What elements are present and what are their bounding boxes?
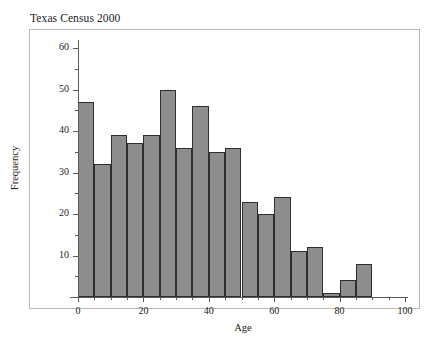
x-tick-label: 40	[204, 305, 214, 316]
y-tick-minor	[0, 235, 78, 236]
y-tick-major: 50	[0, 90, 78, 91]
y-tick-label: 30	[59, 166, 69, 177]
tick-mark	[73, 90, 78, 91]
x-tick-label: 20	[138, 305, 148, 316]
y-tick-minor	[0, 110, 78, 111]
tick-mark	[242, 297, 243, 300]
tick-mark	[291, 297, 292, 300]
histogram-chart: Texas Census 2000 102030405060 020406080…	[0, 0, 435, 346]
x-tick-label: 80	[335, 305, 345, 316]
tick-mark	[73, 131, 78, 132]
tick-mark	[389, 297, 390, 300]
x-tick-label: 0	[76, 305, 81, 316]
y-tick-label: 20	[59, 207, 69, 218]
y-tick-minor	[0, 69, 78, 70]
tick-mark	[209, 297, 210, 302]
histogram-bar	[258, 214, 274, 297]
tick-mark	[323, 297, 324, 300]
tick-mark	[356, 297, 357, 300]
tick-mark	[75, 69, 78, 70]
histogram-bar	[291, 251, 307, 297]
y-tick-major: 10	[0, 256, 78, 257]
tick-mark	[307, 297, 308, 300]
y-axis-title: Frequency	[9, 146, 20, 190]
tick-mark	[73, 173, 78, 174]
tick-mark	[405, 297, 406, 302]
y-tick-label: 10	[59, 249, 69, 260]
tick-mark	[127, 297, 128, 300]
y-tick-label: 50	[59, 83, 69, 94]
tick-mark	[274, 297, 275, 302]
chart-title: Texas Census 2000	[30, 12, 120, 24]
histogram-bar	[242, 202, 258, 297]
histogram-bar	[94, 164, 110, 297]
x-axis-title: Age	[234, 322, 252, 333]
y-tick-major: 40	[0, 131, 78, 132]
tick-mark	[258, 297, 259, 300]
histogram-bar	[111, 135, 127, 297]
histogram-bar	[78, 102, 94, 297]
histogram-bar	[307, 247, 323, 297]
tick-mark	[340, 297, 341, 302]
y-tick-major: 20	[0, 214, 78, 215]
histogram-bar	[192, 106, 208, 297]
histogram-bar	[274, 197, 290, 297]
tick-mark	[94, 297, 95, 300]
tick-mark	[75, 152, 78, 153]
tick-mark	[75, 193, 78, 194]
y-tick-minor	[0, 193, 78, 194]
tick-mark	[143, 297, 144, 302]
x-axis-line	[70, 297, 408, 298]
tick-mark	[73, 256, 78, 257]
tick-mark	[75, 276, 78, 277]
y-tick-label: 40	[59, 124, 69, 135]
histogram-bar	[160, 90, 176, 298]
y-axis-line	[78, 40, 79, 298]
histogram-bar	[340, 280, 356, 297]
tick-mark	[176, 297, 177, 300]
histogram-bar	[225, 148, 241, 297]
tick-mark	[73, 48, 78, 49]
histogram-bar	[356, 264, 372, 297]
tick-mark	[73, 214, 78, 215]
x-tick-label: 60	[269, 305, 279, 316]
histogram-bar	[176, 148, 192, 297]
tick-mark	[111, 297, 112, 300]
tick-mark	[372, 297, 373, 300]
y-tick-minor	[0, 276, 78, 277]
tick-mark	[225, 297, 226, 300]
tick-mark	[192, 297, 193, 300]
y-tick-label: 60	[59, 41, 69, 52]
tick-mark	[160, 297, 161, 300]
tick-mark	[75, 110, 78, 111]
histogram-bar	[143, 135, 159, 297]
histogram-bar	[209, 152, 225, 297]
tick-mark	[75, 235, 78, 236]
y-tick-major: 60	[0, 48, 78, 49]
histogram-bar	[127, 143, 143, 297]
tick-mark	[78, 297, 79, 302]
x-tick-label: 100	[398, 305, 413, 316]
